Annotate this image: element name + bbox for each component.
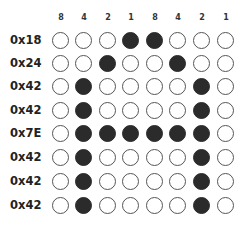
column-header: 2 (98, 13, 118, 22)
empty-bit-circle (146, 55, 163, 72)
filled-bit-circle (75, 78, 92, 95)
empty-bit-circle (217, 78, 234, 95)
filled-bit-circle (99, 55, 116, 72)
empty-bit-circle (122, 173, 139, 190)
filled-bit-circle (146, 32, 163, 49)
empty-bit-circle (52, 78, 69, 95)
empty-bit-circle (122, 102, 139, 119)
empty-bit-circle (52, 55, 69, 72)
empty-bit-circle (169, 149, 186, 166)
filled-bit-circle (122, 32, 139, 49)
empty-bit-circle (52, 197, 69, 214)
column-header: 1 (121, 13, 141, 22)
row-hex-label: 0x42 (10, 174, 41, 188)
empty-bit-circle (217, 125, 234, 142)
empty-bit-circle (99, 78, 116, 95)
filled-bit-circle (75, 149, 92, 166)
empty-bit-circle (99, 197, 116, 214)
row-hex-label: 0x42 (10, 198, 41, 212)
empty-bit-circle (169, 102, 186, 119)
empty-bit-circle (169, 78, 186, 95)
empty-bit-circle (193, 32, 210, 49)
filled-bit-circle (99, 125, 116, 142)
empty-bit-circle (99, 102, 116, 119)
empty-bit-circle (122, 197, 139, 214)
empty-bit-circle (122, 149, 139, 166)
empty-bit-circle (146, 78, 163, 95)
empty-bit-circle (99, 173, 116, 190)
filled-bit-circle (193, 78, 210, 95)
empty-bit-circle (193, 55, 210, 72)
empty-bit-circle (146, 173, 163, 190)
empty-bit-circle (99, 149, 116, 166)
filled-bit-circle (193, 173, 210, 190)
empty-bit-circle (217, 102, 234, 119)
column-header: 8 (145, 13, 165, 22)
filled-bit-circle (193, 102, 210, 119)
row-hex-label: 0x42 (10, 103, 41, 117)
column-header: 2 (192, 13, 212, 22)
column-header: 8 (51, 13, 71, 22)
filled-bit-circle (169, 125, 186, 142)
empty-bit-circle (217, 32, 234, 49)
empty-bit-circle (52, 173, 69, 190)
empty-bit-circle (217, 149, 234, 166)
filled-bit-circle (75, 173, 92, 190)
column-header: 4 (168, 13, 188, 22)
empty-bit-circle (217, 173, 234, 190)
filled-bit-circle (122, 125, 139, 142)
row-hex-label: 0x42 (10, 79, 41, 93)
filled-bit-circle (193, 149, 210, 166)
column-header: 1 (216, 13, 236, 22)
empty-bit-circle (52, 149, 69, 166)
empty-bit-circle (146, 197, 163, 214)
empty-bit-circle (146, 102, 163, 119)
empty-bit-circle (146, 149, 163, 166)
empty-bit-circle (75, 55, 92, 72)
empty-bit-circle (169, 32, 186, 49)
filled-bit-circle (75, 197, 92, 214)
filled-bit-circle (193, 197, 210, 214)
row-hex-label: 0x24 (10, 56, 41, 70)
row-hex-label: 0x18 (10, 33, 41, 47)
empty-bit-circle (122, 78, 139, 95)
empty-bit-circle (52, 102, 69, 119)
empty-bit-circle (217, 55, 234, 72)
filled-bit-circle (75, 125, 92, 142)
column-header: 4 (74, 13, 94, 22)
empty-bit-circle (122, 55, 139, 72)
empty-bit-circle (169, 173, 186, 190)
filled-bit-circle (146, 125, 163, 142)
filled-bit-circle (169, 55, 186, 72)
row-hex-label: 0x42 (10, 150, 41, 164)
row-hex-label: 0x7E (10, 126, 41, 140)
empty-bit-circle (99, 32, 116, 49)
empty-bit-circle (169, 197, 186, 214)
empty-bit-circle (52, 32, 69, 49)
empty-bit-circle (75, 32, 92, 49)
empty-bit-circle (52, 125, 69, 142)
filled-bit-circle (75, 102, 92, 119)
filled-bit-circle (193, 125, 210, 142)
empty-bit-circle (217, 197, 234, 214)
